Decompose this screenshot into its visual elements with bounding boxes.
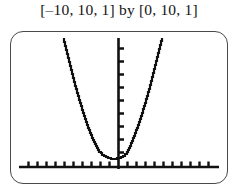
graph-plot-area[interactable]: [11, 32, 227, 183]
window-settings-caption: [–10, 10, 1] by [0, 10, 1]: [0, 1, 238, 19]
graphing-calculator-screen[interactable]: [10, 31, 228, 184]
parabola-curve: [64, 38, 162, 159]
